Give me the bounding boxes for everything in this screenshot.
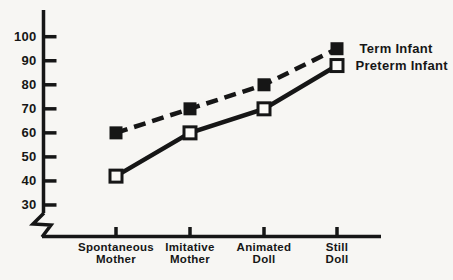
y-tick-label: 90 (21, 53, 36, 68)
marker-open-square (110, 170, 122, 182)
y-tick-label: 70 (21, 101, 36, 116)
x-tick-label: AnimatedDoll (237, 241, 292, 265)
y-tick-label: 50 (21, 149, 36, 164)
y-tick-label: 100 (14, 29, 37, 44)
line-chart: 10090807060504030SpontaneousMotherImitat… (0, 0, 453, 280)
y-tick-label: 60 (21, 125, 36, 140)
x-tick-label: SpontaneousMother (78, 241, 154, 265)
marker-filled-square (184, 102, 197, 115)
chart-figure: 10090807060504030SpontaneousMotherImitat… (0, 0, 453, 280)
x-tick-label: StillDoll (326, 241, 349, 265)
y-tick-label: 80 (21, 77, 36, 92)
x-tick-label: ImitativeMother (165, 241, 214, 265)
series-label-preterm-infant: Preterm Infant (356, 58, 449, 73)
marker-open-square (331, 60, 343, 72)
series-line-preterm-infant (116, 66, 337, 177)
y-tick-label: 40 (21, 173, 36, 188)
marker-filled-square (258, 78, 271, 91)
marker-filled-square (331, 42, 344, 55)
series-label-term-infant: Term Infant (360, 41, 433, 56)
marker-open-square (258, 103, 270, 115)
marker-filled-square (110, 126, 123, 139)
marker-open-square (184, 127, 196, 139)
y-axis-break-icon (33, 213, 51, 237)
y-tick-label: 30 (21, 197, 36, 212)
